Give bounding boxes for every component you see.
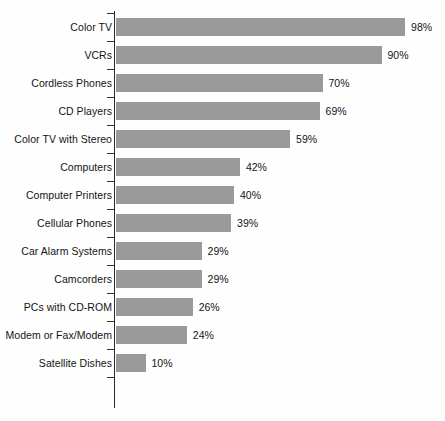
bar	[116, 158, 240, 176]
bar-row: Computers42%	[0, 153, 445, 181]
bar	[116, 130, 290, 148]
bar-value-label: 29%	[208, 237, 229, 265]
bar-row: Satellite Dishes10%	[0, 349, 445, 377]
bar	[116, 242, 202, 260]
bar-category-label: Modem or Fax/Modem	[5, 321, 112, 349]
bar-row: Cordless Phones70%	[0, 69, 445, 97]
bar-row: Camcorders29%	[0, 265, 445, 293]
bar-row: Cellular Phones39%	[0, 209, 445, 237]
bar-category-label: Camcorders	[54, 265, 112, 293]
bar-category-label: Cordless Phones	[31, 69, 112, 97]
bar-value-label: 10%	[152, 349, 173, 377]
bar-value-label: 90%	[388, 41, 409, 69]
bar	[116, 298, 193, 316]
bar-value-label: 42%	[246, 153, 267, 181]
bar-chart-figure: Color TV98%VCRs90%Cordless Phones70%CD P…	[0, 0, 445, 421]
bar-value-label: 70%	[329, 69, 350, 97]
bar	[116, 326, 187, 344]
bar	[116, 270, 202, 288]
bar-value-label: 24%	[193, 321, 214, 349]
bar-category-label: Satellite Dishes	[39, 349, 112, 377]
bar-category-label: CD Players	[58, 97, 112, 125]
bar-value-label: 29%	[208, 265, 229, 293]
bar-row: PCs with CD-ROM26%	[0, 293, 445, 321]
bar	[116, 102, 320, 120]
bar-row: CD Players69%	[0, 97, 445, 125]
bar	[116, 18, 405, 36]
bar	[116, 354, 146, 372]
bar-value-label: 69%	[326, 97, 347, 125]
bar-row: Color TV with Stereo59%	[0, 125, 445, 153]
bar-value-label: 40%	[240, 181, 261, 209]
bar-row-group: Color TV98%VCRs90%Cordless Phones70%CD P…	[0, 0, 445, 421]
bar	[116, 74, 323, 92]
bar	[116, 214, 231, 232]
bar-category-label: Color TV	[70, 13, 112, 41]
bar	[116, 186, 234, 204]
bar-row: Computer Printers40%	[0, 181, 445, 209]
bar-value-label: 59%	[296, 125, 317, 153]
bar-row: Car Alarm Systems29%	[0, 237, 445, 265]
bar-row: Color TV98%	[0, 13, 445, 41]
bar-category-label: Computers	[60, 153, 112, 181]
bar-category-label: Color TV with Stereo	[14, 125, 112, 153]
bar-category-label: Computer Printers	[26, 181, 112, 209]
bar-category-label: Cellular Phones	[37, 209, 112, 237]
bar-category-label: PCs with CD-ROM	[24, 293, 112, 321]
bar-value-label: 26%	[199, 293, 220, 321]
bar-category-label: Car Alarm Systems	[21, 237, 112, 265]
bar-row: Modem or Fax/Modem24%	[0, 321, 445, 349]
bar-value-label: 98%	[411, 13, 432, 41]
bar-row: VCRs90%	[0, 41, 445, 69]
bar-value-label: 39%	[237, 209, 258, 237]
bar	[116, 46, 382, 64]
bar-category-label: VCRs	[84, 41, 112, 69]
